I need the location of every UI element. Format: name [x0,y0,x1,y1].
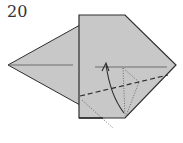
front-flap [79,15,176,118]
origami-diagram [0,0,183,143]
